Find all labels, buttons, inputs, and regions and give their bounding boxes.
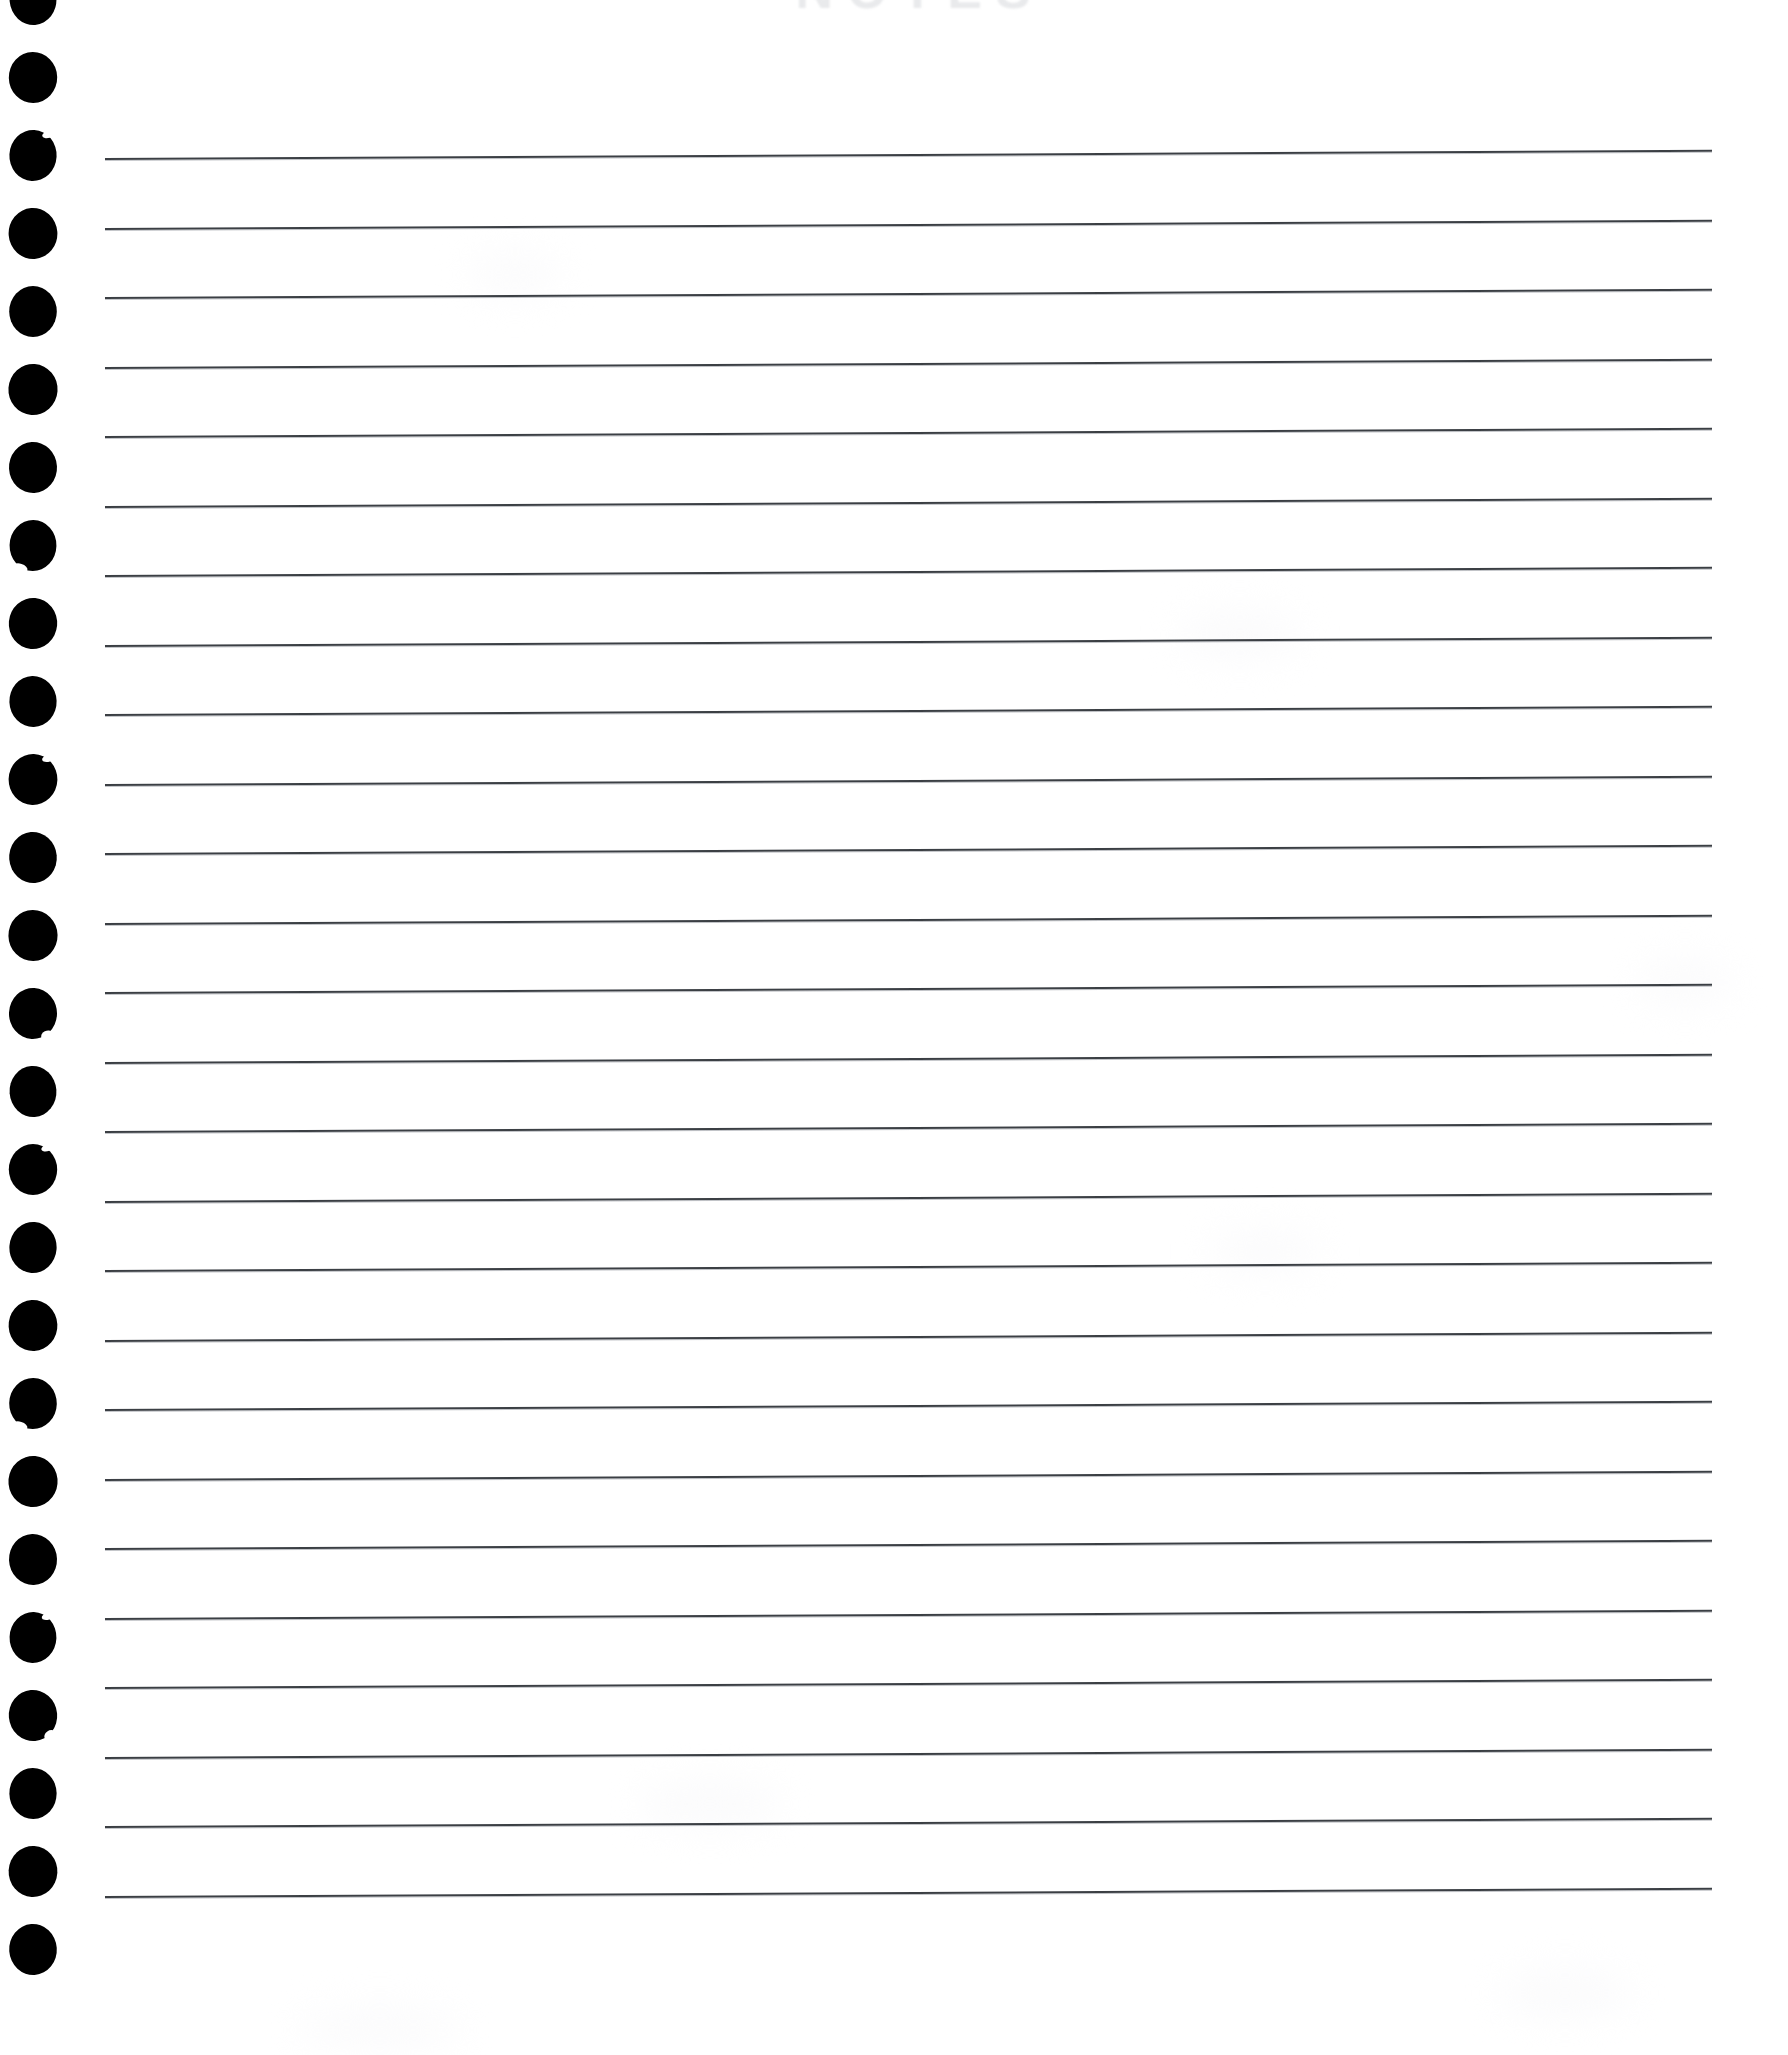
rule-line <box>105 1748 1712 1758</box>
punch-hole <box>8 52 57 104</box>
rule-line <box>105 1887 1712 1897</box>
rule-line <box>105 289 1712 299</box>
rule-line <box>105 1331 1712 1341</box>
punch-hole <box>7 1845 58 1898</box>
notepad-page: NOTES <box>0 0 1788 2055</box>
punch-hole <box>7 830 59 885</box>
rule-line <box>105 1818 1712 1828</box>
punch-hole <box>7 596 60 651</box>
rule-line <box>105 636 1712 646</box>
rule-line <box>105 1540 1712 1550</box>
rule-line <box>105 428 1712 438</box>
punch-hole <box>9 1378 57 1430</box>
punch-hole-column <box>0 0 80 2055</box>
rule-line <box>105 1679 1712 1689</box>
rule-line <box>105 219 1712 229</box>
punch-hole <box>7 362 60 416</box>
punch-hole <box>9 1768 57 1820</box>
punch-hole <box>8 910 58 962</box>
rule-line <box>105 845 1712 855</box>
ruled-lines-group <box>0 0 1788 2055</box>
rule-line <box>105 497 1712 507</box>
punch-hole <box>7 1922 58 1976</box>
punch-hole <box>8 753 59 806</box>
punch-hole <box>9 520 57 572</box>
punch-hole <box>8 987 59 1040</box>
rule-line <box>105 984 1712 994</box>
punch-hole <box>9 1144 57 1195</box>
rule-line <box>105 914 1712 924</box>
rule-line <box>105 150 1712 160</box>
punch-hole <box>8 441 59 494</box>
punch-hole <box>7 1299 58 1352</box>
rule-line <box>105 1470 1712 1480</box>
punch-hole <box>9 286 57 337</box>
rule-line <box>105 1123 1712 1133</box>
punch-hole <box>7 1688 60 1743</box>
rule-line <box>105 1401 1712 1411</box>
rule-line <box>105 1609 1712 1619</box>
rule-line <box>105 1192 1712 1202</box>
punch-hole <box>7 206 59 260</box>
punch-hole <box>8 1220 59 1274</box>
punch-hole <box>8 1533 58 1586</box>
rule-line <box>105 1262 1712 1272</box>
rule-line <box>105 1053 1712 1063</box>
punch-hole <box>7 0 58 27</box>
punch-hole <box>8 1064 58 1118</box>
rule-line <box>105 775 1712 785</box>
punch-hole <box>8 129 58 182</box>
punch-hole <box>6 1454 59 1509</box>
rule-line <box>105 358 1712 368</box>
rule-line <box>105 706 1712 716</box>
rule-line <box>105 567 1712 577</box>
punch-hole <box>9 675 58 728</box>
punch-hole <box>9 1611 58 1664</box>
